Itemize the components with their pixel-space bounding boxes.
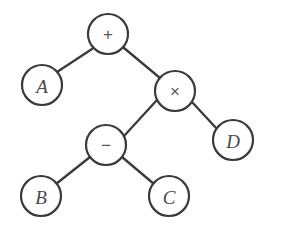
tree-edge-minus-to-b — [56, 157, 90, 184]
node-label-times: × — [170, 82, 180, 101]
node-label-d: D — [225, 131, 240, 152]
tree-edge-root-to-a — [57, 49, 92, 72]
tree-canvas: +A×−DBC — [0, 0, 281, 233]
tree-edge-minus-to-c — [122, 157, 154, 184]
tree-node-times[interactable]: × — [155, 71, 195, 111]
tree-node-a[interactable]: A — [22, 65, 62, 105]
tree-node-b[interactable]: B — [21, 176, 61, 216]
edges-layer — [56, 48, 217, 184]
node-label-b: B — [35, 187, 47, 208]
tree-node-d[interactable]: D — [213, 120, 253, 160]
expression-tree-diagram: +A×−DBC — [0, 0, 281, 233]
tree-edge-root-to-times — [124, 48, 160, 78]
node-label-c: C — [163, 187, 176, 208]
tree-node-root[interactable]: + — [88, 14, 128, 54]
tree-node-minus[interactable]: − — [86, 125, 126, 165]
tree-node-c[interactable]: C — [149, 176, 189, 216]
tree-edge-times-to-d — [192, 102, 217, 129]
node-label-a: A — [34, 76, 48, 97]
node-label-root: + — [103, 25, 113, 44]
tree-edge-times-to-minus — [124, 100, 157, 136]
node-label-minus: − — [101, 136, 111, 155]
nodes-layer: +A×−DBC — [21, 14, 253, 216]
